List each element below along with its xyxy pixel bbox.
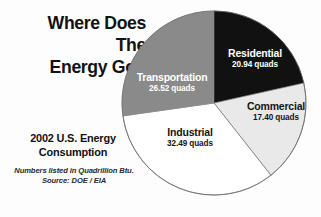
pie-slice-transportation[interactable] [122,11,214,116]
pie-chart-svg [120,9,310,199]
poster-canvas: Where Does The Energy Go? 2002 U.S. Ener… [0,0,321,217]
pie-chart [120,9,310,199]
